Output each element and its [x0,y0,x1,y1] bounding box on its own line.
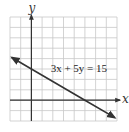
y-axis-label: y [27,1,35,15]
equation-label: 3x + 5y = 15 [51,62,108,74]
graph: y x 3x + 5y = 15 [0,0,129,132]
x-axis-label: x [122,92,129,106]
